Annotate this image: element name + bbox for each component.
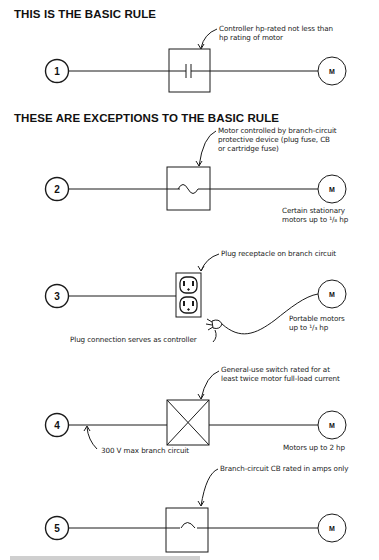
callout-4-line1: General-use switch rated for at	[221, 365, 330, 374]
motor-2-note-line1: Certain stationary	[282, 206, 345, 215]
plug-icon	[206, 319, 222, 330]
circuit-breaker-box	[166, 508, 208, 552]
callout-1-line2: hp rating of motor	[219, 33, 283, 42]
wiring-diagram: 1 2 3 4 5 M M M M M	[0, 0, 379, 560]
motor-2-label: M	[329, 186, 335, 193]
motor-4-label: M	[329, 422, 335, 429]
circuit-2-number: 2	[54, 184, 60, 195]
motor-1-label: M	[329, 68, 335, 75]
callout-5-line1: Branch-circuit CB rated in amps only	[220, 464, 348, 473]
plug-note: Plug connection serves as controller	[70, 335, 197, 344]
circuit-1	[46, 29, 347, 92]
callout-1-line1: Controller hp-rated not less than	[219, 24, 333, 33]
motor-3-label: M	[329, 291, 335, 298]
motor-2-note-line2: motors up to ¹/₈ hp	[282, 215, 348, 224]
motor-5-label: M	[329, 525, 335, 532]
circuit-1-number: 1	[54, 66, 60, 77]
callout-3-line1: Plug receptacle on branch circuit	[221, 249, 336, 258]
circuit-5	[46, 469, 347, 552]
motor-4-note: Motors up to 2 hp	[283, 443, 345, 452]
callout-4-line2: least twice motor full-load current	[221, 374, 340, 383]
line-note: 300 V max branch circuit	[101, 446, 189, 455]
callout-2-line1: Motor controlled by branch-circuit	[218, 126, 337, 135]
fuse-icon	[178, 185, 198, 194]
circuit-breaker-icon	[181, 523, 195, 529]
circuit-5-number: 5	[54, 523, 60, 534]
circuit-4-number: 4	[54, 420, 60, 431]
motor-3-note-line2: up to ¹/₃ hp	[289, 323, 328, 332]
motor-3-note-line1: Portable motors	[289, 314, 345, 323]
circuit-3-number: 3	[54, 291, 60, 302]
callout-2-line2: protective device (plug fuse, CB	[218, 135, 330, 144]
caption-fragment	[10, 556, 200, 560]
callout-2-line3: or cartridge fuse)	[218, 144, 279, 153]
